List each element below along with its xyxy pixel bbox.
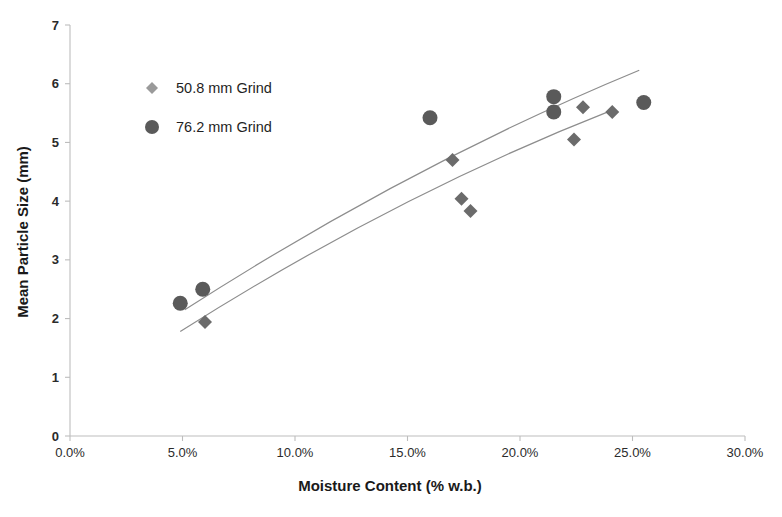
y-tick-label: 6 [52,76,59,91]
x-tick-label: 25.0% [614,445,651,460]
y-tick-label: 4 [52,194,60,209]
legend-item-label: 50.8 mm Grind [176,80,272,96]
chart-background [0,0,782,517]
x-tick-label: 5.0% [168,445,198,460]
data-point-marker [173,296,188,311]
y-tick-label: 3 [52,252,59,267]
scatter-plot: 01234567 0.0%5.0%10.0%15.0%20.0%25.0%30.… [0,0,782,517]
x-tick-label: 0.0% [55,445,85,460]
data-point-marker [423,110,438,125]
y-tick-label: 7 [52,18,59,33]
x-tick-label: 10.0% [277,445,314,460]
legend-item-label: 76.2 mm Grind [176,119,272,135]
data-point-marker [636,95,651,110]
legend-marker-circle [145,120,159,134]
y-tick-label: 1 [52,370,59,385]
data-point-marker [195,282,210,297]
chart-container: 01234567 0.0%5.0%10.0%15.0%20.0%25.0%30.… [0,0,782,517]
x-tick-label: 20.0% [502,445,539,460]
x-tick-label: 15.0% [389,445,426,460]
data-point-marker [546,89,561,104]
x-tick-label: 30.0% [727,445,764,460]
data-point-marker [546,104,561,119]
y-tick-label: 5 [52,135,59,150]
y-tick-label: 2 [52,311,59,326]
x-axis-title: Moisture Content (% w.b.) [298,477,482,494]
y-axis-title: Mean Particle Size (mm) [14,146,31,318]
y-tick-label: 0 [52,429,59,444]
